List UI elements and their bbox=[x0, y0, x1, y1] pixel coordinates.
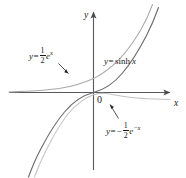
fraction-numerator: 1 bbox=[40, 47, 46, 55]
label-half-exponential: y=12ex bbox=[29, 47, 53, 65]
fraction-one-half-negative: 12 bbox=[123, 122, 129, 140]
figure-container: y=12ex y=sinh x y=−12e−x 0 x y bbox=[0, 0, 186, 178]
plot-canvas bbox=[0, 0, 186, 178]
label-neg-half-exponent: −x bbox=[133, 124, 140, 131]
origin-label: 0 bbox=[97, 94, 102, 105]
leader-half-exp bbox=[59, 64, 69, 74]
fraction-numerator: 1 bbox=[123, 122, 129, 130]
label-sinh-function: sinh bbox=[114, 56, 130, 66]
fraction-one-half: 12 bbox=[40, 47, 46, 65]
label-negative-half-exponential: y=−12e−x bbox=[106, 122, 140, 140]
y-axis-label: y bbox=[84, 10, 88, 20]
label-half-exp-exponent: x bbox=[50, 49, 53, 56]
x-axis-label: x bbox=[174, 98, 178, 108]
fraction-denominator: 2 bbox=[123, 132, 129, 140]
label-sinh-argument: x bbox=[132, 56, 136, 66]
leader-neg-half-exp bbox=[110, 105, 119, 119]
label-neg-half-minus: − bbox=[116, 126, 122, 136]
label-sinh: y=sinh x bbox=[104, 57, 136, 66]
curve-neg-half-exp bbox=[35, 93, 171, 177]
label-half-exp-equals: = bbox=[33, 51, 39, 61]
fraction-denominator: 2 bbox=[40, 57, 46, 65]
